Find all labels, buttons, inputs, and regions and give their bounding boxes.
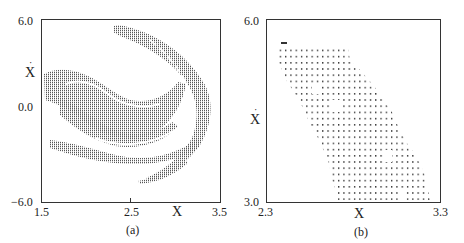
y-axis-label-dot: ·: [254, 105, 257, 115]
y-tick-bottom: 3.0: [244, 196, 259, 208]
y-tick-mid: 0.0: [18, 101, 33, 113]
panel-b: 6.0 3.0 2.3 3.3 X X · (b): [232, 0, 464, 243]
y-tick-bottom: −6.0: [11, 196, 33, 208]
y-tick-top: 6.0: [244, 15, 259, 27]
y-tick-top: 6.0: [18, 15, 33, 27]
panel-b-caption: (b): [354, 226, 368, 238]
y-axis-label-dot: ·: [29, 58, 32, 68]
x-tick-left: 1.5: [34, 206, 49, 218]
x-tick-right: 3.5: [212, 206, 227, 218]
y-axis-label: X: [250, 113, 260, 127]
x-axis-label: X: [172, 205, 182, 219]
panel-a-frame: [41, 19, 221, 203]
x-tick-2-5: [130, 198, 131, 202]
x-axis-label: X: [354, 207, 364, 221]
x-tick-mid: 2.5: [124, 206, 139, 218]
y-axis-label: X: [25, 66, 35, 80]
panel-a-caption: (a): [126, 224, 139, 236]
x-tick-right: 3.3: [433, 206, 448, 218]
panel-a: 6.0 0.0 −6.0 1.5 2.5 3.5 X X · (a): [0, 0, 232, 243]
panel-b-frame: [266, 19, 441, 203]
x-tick-left: 2.3: [258, 206, 273, 218]
